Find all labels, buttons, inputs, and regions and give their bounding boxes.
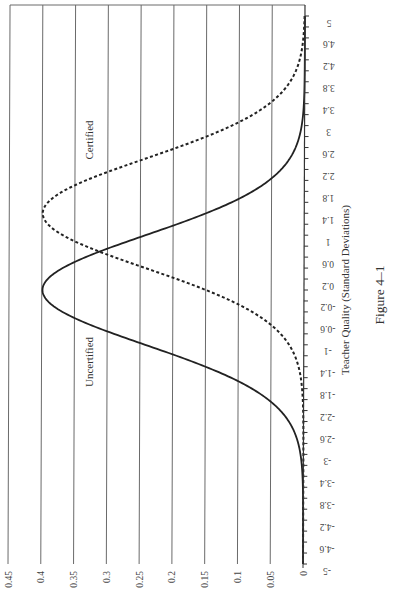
y-tick-label: 0.2 bbox=[167, 571, 177, 583]
gridline bbox=[172, 5, 174, 564]
chart: -5-4.6-4.2-3.8-3.4-3-2.6-2.2-1.8-1.4-1-0… bbox=[0, 0, 393, 596]
y-tick-label: 0.3 bbox=[102, 571, 112, 583]
gridlines bbox=[8, 5, 305, 568]
x-tick-label: 4.2 bbox=[323, 61, 335, 71]
gridline bbox=[237, 5, 239, 564]
y-tick-label: 0.1 bbox=[233, 571, 243, 583]
gridline bbox=[74, 5, 76, 564]
y-tick-label: 0.45 bbox=[4, 571, 14, 588]
x-tick-label: -3.8 bbox=[319, 500, 334, 510]
y-tick-label: 0.05 bbox=[266, 571, 276, 588]
y-tick-label: 0.4 bbox=[36, 571, 46, 583]
x-axis-ticks: -5-4.6-4.2-3.8-3.4-3-2.6-2.2-1.8-1.4-1-0… bbox=[303, 16, 335, 576]
x-tick-label: 3.4 bbox=[322, 105, 334, 115]
x-tick-label: -3.4 bbox=[320, 478, 335, 488]
uncertified-label: Uncertified bbox=[83, 336, 95, 387]
x-tick-label: -3 bbox=[323, 456, 331, 466]
x-tick-label: 2.6 bbox=[322, 149, 334, 159]
x-tick-label: 4.6 bbox=[323, 39, 335, 49]
x-tick-label: -4.2 bbox=[319, 522, 334, 532]
certified-label: Certified bbox=[83, 120, 95, 160]
figure-caption: Figure 4–1 bbox=[372, 266, 387, 325]
x-tick-label: -0.6 bbox=[320, 324, 335, 334]
gridline bbox=[8, 5, 10, 564]
x-tick-label: -1.4 bbox=[320, 368, 335, 378]
x-tick-label: 3 bbox=[326, 127, 331, 137]
gridline bbox=[205, 5, 207, 564]
x-tick-label: -2.2 bbox=[320, 412, 335, 422]
y-tick-label: 0 bbox=[299, 571, 309, 576]
x-tick-label: 5 bbox=[326, 18, 331, 28]
x-tick-label: -1 bbox=[324, 346, 332, 356]
x-axis-title: Teacher Quality (Standard Deviations) bbox=[339, 205, 352, 375]
x-tick-label: 1 bbox=[326, 237, 331, 247]
x-tick-label: 1.8 bbox=[322, 193, 334, 203]
x-tick-label: -1.8 bbox=[320, 390, 335, 400]
y-tick-label: 0.15 bbox=[200, 571, 210, 588]
gridline bbox=[106, 5, 108, 564]
gridline bbox=[41, 5, 43, 564]
y-axis-ticks: 00.050.10.150.20.250.30.350.40.45 bbox=[4, 571, 309, 588]
gridline bbox=[270, 5, 272, 564]
x-tick-label: -0.2 bbox=[320, 302, 335, 312]
y-tick-label: 0.35 bbox=[69, 571, 79, 588]
x-tick-label: 3.8 bbox=[323, 83, 335, 93]
x-tick-label: -5 bbox=[323, 566, 331, 576]
y-tick-label: 0.25 bbox=[135, 571, 145, 588]
x-tick-label: -4.6 bbox=[319, 544, 334, 554]
x-tick-label: 1.4 bbox=[322, 215, 334, 225]
gridline bbox=[139, 5, 141, 564]
x-tick-label: 0.6 bbox=[322, 259, 334, 269]
x-tick-label: 2.2 bbox=[322, 171, 334, 181]
x-tick-label: 0.2 bbox=[322, 281, 334, 291]
x-tick-label: -2.6 bbox=[320, 434, 335, 444]
